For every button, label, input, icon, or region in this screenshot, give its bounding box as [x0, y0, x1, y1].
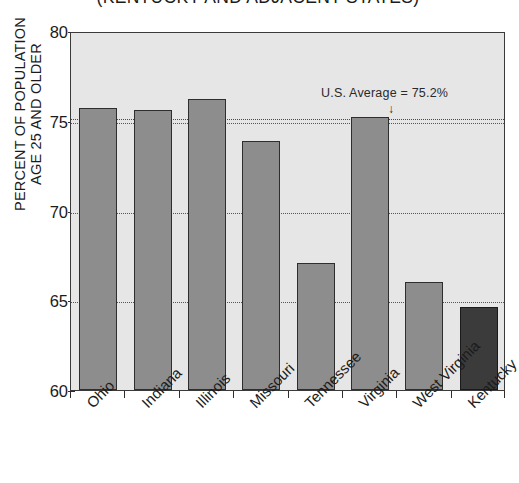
x-tick-mark-5: [342, 391, 343, 398]
x-tick-mark-3: [233, 391, 234, 398]
x-tick-mark-8: [504, 391, 505, 398]
chart-title: (KENTUCKY AND ADJACENT STATES): [0, 0, 516, 8]
bar-ohio: [79, 108, 117, 390]
x-tick-mark-1: [124, 391, 125, 398]
y-tick-label-75: 75: [28, 112, 68, 131]
y-axis-tick-group: 6065707580: [22, 32, 68, 391]
y-tick-label-70: 70: [28, 202, 68, 221]
bar-missouri: [242, 141, 280, 391]
x-tick-mark-0: [70, 391, 71, 398]
x-tick-mark-4: [288, 391, 289, 398]
x-tick-mark-7: [451, 391, 452, 398]
bar-virginia: [351, 117, 389, 390]
x-tick-mark-2: [179, 391, 180, 398]
y-tick-label-60: 60: [28, 382, 68, 401]
bar-indiana: [134, 110, 172, 390]
bar-illinois: [188, 99, 226, 390]
x-axis-label-group: OhioIndianaIllinoisMissouriTennesseeVirg…: [70, 399, 518, 483]
y-tick-label-80: 80: [28, 23, 68, 42]
plot-area: U.S. Average = 75.2% ↓: [70, 32, 505, 391]
us-average-annotation: U.S. Average = 75.2%: [321, 86, 448, 100]
y-tick-label-65: 65: [28, 292, 68, 311]
x-tick-mark-6: [396, 391, 397, 398]
us-average-arrow-icon: ↓: [388, 103, 394, 115]
